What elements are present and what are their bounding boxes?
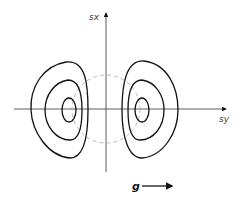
right-contour-inner: [135, 98, 149, 122]
left-contour-group: [31, 62, 88, 158]
right-contour-group: [122, 61, 178, 158]
g-vector-label: g: [132, 180, 140, 193]
left-contour-inner: [62, 98, 76, 122]
right-contour-outer: [122, 61, 178, 158]
sx-axis-label: sx: [89, 12, 100, 22]
sy-axis-label: sy: [219, 114, 230, 124]
left-contour-outer: [31, 62, 88, 158]
diagram-canvas: sx sy g: [0, 0, 240, 199]
